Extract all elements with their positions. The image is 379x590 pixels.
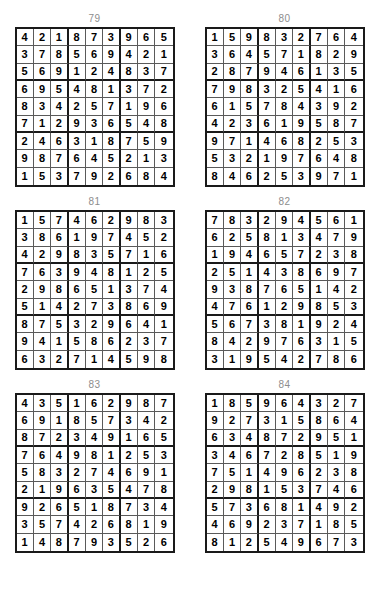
sudoku-cell: 6 (276, 395, 293, 412)
sudoku-cell: 9 (276, 150, 293, 167)
sudoku-cell: 8 (259, 430, 276, 447)
sudoku-cell: 8 (121, 516, 138, 533)
sudoku-cell: 7 (276, 430, 293, 447)
sudoku-cell: 6 (328, 29, 345, 46)
sudoku-cell: 8 (86, 447, 103, 464)
sudoku-cell: 6 (86, 46, 103, 63)
sudoku-cell: 9 (241, 29, 258, 46)
sudoku-cell: 7 (51, 150, 68, 167)
puzzle-number-label: 84 (205, 378, 365, 391)
sudoku-cell: 3 (51, 464, 68, 481)
sudoku-cell: 4 (138, 116, 155, 133)
sudoku-cell: 4 (69, 212, 86, 229)
sudoku-cell: 9 (293, 116, 310, 133)
sudoku-cell: 8 (276, 98, 293, 115)
sudoku-cell: 5 (311, 447, 328, 464)
sudoku-cell: 6 (345, 482, 362, 499)
sudoku-cell: 3 (138, 64, 155, 81)
sudoku-cell: 6 (17, 81, 34, 98)
sudoku-cell: 1 (345, 212, 362, 229)
sudoku-cell: 3 (155, 150, 172, 167)
sudoku-cell: 1 (328, 447, 345, 464)
sudoku-cell: 2 (121, 150, 138, 167)
sudoku-cell: 3 (241, 212, 258, 229)
sudoku-cell: 9 (345, 46, 362, 63)
sudoku-cell: 6 (86, 395, 103, 412)
sudoku-cell: 2 (17, 281, 34, 298)
sudoku-cell: 6 (34, 264, 51, 281)
sudoku-cell: 2 (103, 212, 120, 229)
sudoku-cell: 9 (311, 316, 328, 333)
sudoku-cell: 8 (51, 281, 68, 298)
sudoku-cell: 1 (34, 116, 51, 133)
puzzle-number-label: 80 (205, 12, 365, 25)
sudoku-cell: 4 (17, 29, 34, 46)
sudoku-cell: 3 (276, 516, 293, 533)
sudoku-cell: 1 (241, 264, 258, 281)
sudoku-cell: 9 (293, 534, 310, 551)
sudoku-cell: 2 (311, 133, 328, 150)
sudoku-cell: 4 (207, 299, 224, 316)
sudoku-cell: 1 (69, 64, 86, 81)
sudoku-cell: 8 (86, 81, 103, 98)
sudoku-cell: 4 (103, 64, 120, 81)
sudoku-cell: 4 (345, 316, 362, 333)
sudoku-cell: 8 (345, 247, 362, 264)
sudoku-cell: 2 (293, 351, 310, 368)
sudoku-cell: 6 (328, 212, 345, 229)
sudoku-cell: 3 (259, 81, 276, 98)
sudoku-cell: 3 (121, 81, 138, 98)
sudoku-cell: 4 (241, 430, 258, 447)
sudoku-cell: 6 (224, 316, 241, 333)
sudoku-cell: 2 (259, 168, 276, 185)
sudoku-cell: 8 (155, 351, 172, 368)
sudoku-cell: 7 (207, 464, 224, 481)
sudoku-cell: 4 (34, 133, 51, 150)
sudoku-cell: 5 (138, 447, 155, 464)
sudoku-cell: 7 (69, 534, 86, 551)
sudoku-cell: 7 (241, 64, 258, 81)
sudoku-cell: 6 (311, 264, 328, 281)
sudoku-cell: 3 (311, 395, 328, 412)
sudoku-cell: 2 (224, 116, 241, 133)
sudoku-cell: 6 (311, 150, 328, 167)
sudoku-cell: 2 (138, 46, 155, 63)
sudoku-cell: 8 (276, 316, 293, 333)
sudoku-cell: 6 (276, 133, 293, 150)
sudoku-cell: 4 (276, 64, 293, 81)
sudoku-cell: 3 (121, 281, 138, 298)
sudoku-cell: 9 (259, 64, 276, 81)
sudoku-cell: 3 (69, 430, 86, 447)
sudoku-cell: 2 (121, 333, 138, 350)
sudoku-cell: 2 (328, 316, 345, 333)
sudoku-cell: 4 (293, 395, 310, 412)
sudoku-cell: 6 (51, 133, 68, 150)
sudoku-cell: 6 (121, 316, 138, 333)
sudoku-cell: 3 (207, 46, 224, 63)
sudoku-cell: 6 (276, 281, 293, 298)
sudoku-cell: 5 (69, 499, 86, 516)
sudoku-cell: 8 (328, 351, 345, 368)
sudoku-cell: 3 (207, 351, 224, 368)
sudoku-cell: 1 (345, 430, 362, 447)
sudoku-cell: 1 (17, 212, 34, 229)
sudoku-cell: 8 (259, 29, 276, 46)
sudoku-cell: 3 (69, 133, 86, 150)
sudoku-cell: 9 (138, 464, 155, 481)
sudoku-cell: 3 (345, 534, 362, 551)
sudoku-cell: 3 (328, 464, 345, 481)
sudoku-cell: 8 (224, 395, 241, 412)
sudoku-cell: 3 (51, 264, 68, 281)
sudoku-cell: 4 (328, 482, 345, 499)
sudoku-cell: 7 (276, 333, 293, 350)
sudoku-cell: 9 (328, 98, 345, 115)
sudoku-cell: 2 (51, 116, 68, 133)
sudoku-cell: 2 (103, 395, 120, 412)
sudoku-cell: 5 (328, 299, 345, 316)
sudoku-cell: 5 (34, 212, 51, 229)
sudoku-cell: 8 (345, 150, 362, 167)
sudoku-cell: 5 (345, 333, 362, 350)
sudoku-cell: 1 (207, 395, 224, 412)
sudoku-cell: 2 (103, 168, 120, 185)
sudoku-cell: 2 (207, 64, 224, 81)
